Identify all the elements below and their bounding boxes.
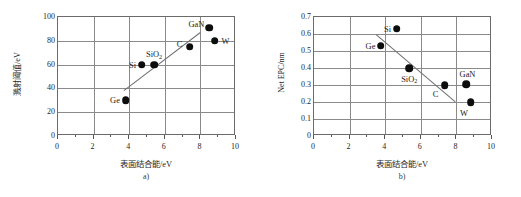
data-label-w: W bbox=[222, 36, 230, 45]
gridline-vertical bbox=[165, 17, 166, 134]
gridline-horizontal bbox=[58, 112, 234, 113]
y-tick-label: 0.3 bbox=[301, 80, 311, 89]
data-point bbox=[441, 81, 449, 89]
y-tick-label: 0.7 bbox=[301, 12, 311, 21]
data-label-c: C bbox=[433, 89, 439, 98]
gridline-horizontal bbox=[314, 51, 490, 52]
data-label-sio2: SiO2 bbox=[146, 50, 162, 59]
x-tick-label: 6 bbox=[162, 142, 166, 151]
gridline-horizontal bbox=[58, 41, 234, 42]
data-label-si: Si bbox=[129, 60, 136, 69]
x-tick-label: 4 bbox=[126, 142, 130, 151]
data-label-c: C bbox=[177, 39, 183, 48]
figure-container: 溅射阈值/eV 100 80 60 40 20 0 bbox=[0, 0, 521, 197]
gridline-vertical bbox=[456, 17, 457, 134]
gridline-vertical bbox=[421, 17, 422, 134]
data-label-w: W bbox=[460, 108, 468, 117]
data-point bbox=[377, 42, 385, 50]
data-label-ge: Ge bbox=[110, 96, 120, 105]
y-tick-label: 0 bbox=[51, 131, 55, 140]
chart-panel-b: Net EPC/nm 0.7 0.6 0.5 0.4 0.3 0.2 0.1 0 bbox=[260, 0, 521, 197]
y-axis-ticklabels-b: 0.7 0.6 0.5 0.4 0.3 0.2 0.1 0 bbox=[285, 0, 311, 197]
data-point bbox=[211, 37, 219, 45]
gridline-horizontal bbox=[58, 65, 234, 66]
y-tick-label: 80 bbox=[47, 35, 55, 44]
y-tick-label: 20 bbox=[47, 107, 55, 116]
x-tick-label: 2 bbox=[91, 142, 95, 151]
plot-area-b: Si Ge SiO2 C GaN W bbox=[313, 16, 491, 135]
gridline-vertical bbox=[129, 17, 130, 134]
data-point bbox=[467, 98, 475, 106]
gridline-vertical bbox=[200, 17, 201, 134]
data-label-gan: GaN bbox=[460, 69, 476, 78]
y-axis-ticklabels-a: 100 80 60 40 20 0 bbox=[29, 0, 55, 197]
panel-caption-b: b) bbox=[313, 172, 491, 181]
gridline-horizontal bbox=[314, 34, 490, 35]
data-point bbox=[138, 61, 146, 69]
data-point bbox=[405, 64, 413, 72]
gridline-vertical bbox=[94, 17, 95, 134]
x-tick-label: 4 bbox=[382, 142, 386, 151]
data-label-gan: GaN bbox=[188, 19, 204, 28]
y-tick-label: 100 bbox=[43, 12, 55, 21]
x-tick-label: 10 bbox=[231, 142, 239, 151]
y-tick-label: 0.2 bbox=[301, 97, 311, 106]
gridline-vertical bbox=[350, 17, 351, 134]
data-point bbox=[150, 61, 158, 69]
x-tick-label: 0 bbox=[311, 142, 315, 151]
data-point bbox=[186, 43, 194, 51]
y-tick-label: 0 bbox=[307, 131, 311, 140]
data-label-si: Si bbox=[384, 24, 391, 33]
gridline-vertical bbox=[385, 17, 386, 134]
data-point bbox=[206, 24, 214, 32]
gridline-horizontal bbox=[314, 119, 490, 120]
x-axis-label-b: 表面结合能/eV bbox=[313, 157, 491, 169]
gridline-horizontal bbox=[314, 102, 490, 103]
data-label-sio2: SiO2 bbox=[401, 74, 417, 83]
data-point bbox=[393, 25, 401, 33]
chart-panel-a: 溅射阈值/eV 100 80 60 40 20 0 bbox=[0, 0, 260, 197]
x-tick-label: 0 bbox=[55, 142, 59, 151]
panel-caption-a: a) bbox=[57, 172, 235, 181]
gridline-horizontal bbox=[58, 88, 234, 89]
x-tick-label: 8 bbox=[197, 142, 201, 151]
y-tick-label: 0.6 bbox=[301, 29, 311, 38]
x-tick-label: 2 bbox=[347, 142, 351, 151]
y-tick-label: 60 bbox=[47, 59, 55, 68]
y-axis-label-a: 溅射阈值/eV bbox=[10, 34, 22, 114]
y-tick-label: 0.5 bbox=[301, 46, 311, 55]
x-tick-label: 8 bbox=[453, 142, 457, 151]
plot-area-a: Ge Si SiO2 C GaN W bbox=[57, 16, 235, 135]
x-tick-label: 6 bbox=[418, 142, 422, 151]
x-axis-label-a: 表面结合能/eV bbox=[57, 157, 235, 169]
x-tick-label: 10 bbox=[487, 142, 495, 151]
data-point bbox=[122, 97, 130, 105]
y-tick-label: 0.1 bbox=[301, 114, 311, 123]
y-tick-label: 0.4 bbox=[301, 63, 311, 72]
data-label-ge: Ge bbox=[366, 41, 376, 50]
y-tick-label: 40 bbox=[47, 83, 55, 92]
data-point bbox=[462, 80, 470, 88]
